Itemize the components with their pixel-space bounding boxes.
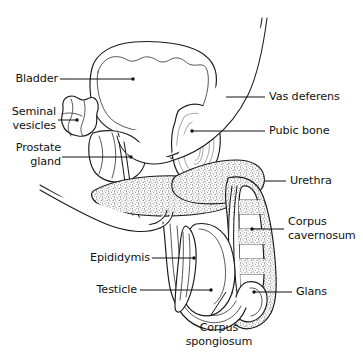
- label-prostate-gland-line2: gland: [0, 155, 61, 169]
- label-prostate-gland-line1: Prostate: [0, 141, 61, 155]
- label-urethra: Urethra: [290, 174, 332, 188]
- label-pubic-bone: Pubic bone: [269, 124, 329, 138]
- label-corpus-cavernosum-line1: Corpus: [288, 215, 327, 229]
- label-corpus-spongiosum-line2: spongiosum: [180, 335, 258, 349]
- label-glans: Glans: [296, 285, 327, 299]
- label-corpus-spongiosum-line1: Corpus: [180, 321, 258, 335]
- label-seminal-vesicles-line1: Seminal: [0, 105, 56, 119]
- anatomy-diagram: Bladder Seminal vesicles Prostate gland …: [0, 0, 363, 363]
- label-corpus-cavernosum-line2: cavernosum: [288, 229, 356, 243]
- seminal-vesicles-shape: [61, 96, 98, 136]
- label-bladder: Bladder: [0, 72, 58, 86]
- label-testicle: Testicle: [82, 283, 137, 297]
- label-epididymis: Epididymis: [82, 251, 150, 265]
- label-seminal-vesicles-line2: vesicles: [0, 119, 56, 133]
- label-vas-deferens: Vas deferens: [269, 90, 340, 104]
